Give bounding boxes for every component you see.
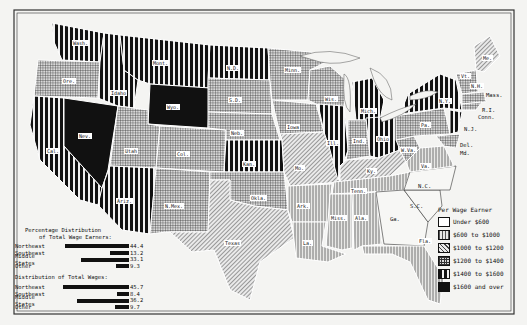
label-mont: Mont. xyxy=(152,60,169,66)
label-miss: Miss. xyxy=(330,215,347,221)
label-conn: Conn. xyxy=(478,114,495,120)
label-wva: W.Va. xyxy=(400,147,417,153)
label-ariz: Ariz. xyxy=(116,198,133,204)
label-pa: Pa. xyxy=(420,122,431,128)
label-nev: Nev. xyxy=(78,133,92,139)
earners-title-2: of Total Wage Earners: xyxy=(15,234,165,241)
state-miss xyxy=(326,194,352,250)
label-ohio: Ohio xyxy=(376,136,390,142)
swatch-heavy-vertical-icon xyxy=(438,269,450,279)
swatch-blank-icon xyxy=(438,217,450,227)
label-tenn: Tenn. xyxy=(350,188,367,194)
swatch-diagonal-icon xyxy=(438,243,450,253)
bar xyxy=(63,285,129,289)
bar xyxy=(65,244,129,248)
label-mass: Mass. xyxy=(486,92,503,98)
distribution-panel: Percentage Distribution of Total Wage Ea… xyxy=(15,227,165,311)
label-ark: Ark. xyxy=(296,203,310,209)
wages-title: Distribution of Total Wages: xyxy=(15,274,165,281)
bar xyxy=(115,305,129,309)
swatch-solid-icon xyxy=(438,282,450,292)
label-minn: Minn. xyxy=(284,67,301,73)
label-ore: Ore. xyxy=(62,78,76,84)
label-ga: Ga. xyxy=(390,216,400,222)
label-ala: Ala. xyxy=(354,215,368,221)
label-la: La. xyxy=(302,240,313,246)
label-sd: S.D. xyxy=(228,97,242,103)
label-sc: S.C. xyxy=(410,203,423,209)
earners-title-1: Percentage Distribution xyxy=(15,227,165,234)
label-idaho: Idaho xyxy=(110,90,127,96)
swatch-light-vertical-icon xyxy=(438,230,450,240)
label-wash: Wash. xyxy=(72,40,89,46)
wages-row-middle-states: Middle States 36.2 xyxy=(15,297,165,304)
earners-row-other: Other 9.3 xyxy=(15,263,165,270)
label-ky: Ky. xyxy=(366,168,377,174)
state-col xyxy=(156,126,226,172)
bar xyxy=(81,258,129,262)
state-wis xyxy=(308,66,346,110)
label-wis: Wis. xyxy=(324,96,338,102)
label-col: Col. xyxy=(176,151,190,157)
legend-item-1400-1600: $1400 to $1600 xyxy=(438,267,526,280)
earners-row-northeast: Northeast 44.4 xyxy=(15,243,165,250)
bar xyxy=(116,264,129,268)
state-fla xyxy=(362,246,444,304)
state-nd xyxy=(208,45,270,80)
state-sd xyxy=(208,78,272,114)
label-neb: Neb. xyxy=(230,130,244,136)
state-nmex xyxy=(150,168,210,234)
label-me: Me. xyxy=(482,55,493,61)
state-nj xyxy=(450,110,462,134)
state-me xyxy=(474,36,500,72)
label-okla: Okla. xyxy=(250,195,267,201)
legend-item-under-600: Under $600 xyxy=(438,215,526,228)
legend-item-1200-1400: $1200 to $1400 xyxy=(438,254,526,267)
label-ri: R.I. xyxy=(482,107,495,113)
label-nc: N.C. xyxy=(418,183,431,189)
earners-row-middle-states: Middle States 33.1 xyxy=(15,256,165,263)
wages-row-other: Other 9.7 xyxy=(15,304,165,311)
label-md: Md. xyxy=(460,150,470,156)
label-mo: Mo. xyxy=(294,165,305,171)
legend-item-600-1000: $600 to $1000 xyxy=(438,228,526,241)
label-ind: Ind. xyxy=(352,138,366,144)
label-wyo: Wyo. xyxy=(166,104,180,110)
label-cal: Cal. xyxy=(46,148,60,154)
label-texas: Texas xyxy=(224,240,241,246)
label-mich: Mich. xyxy=(360,108,377,114)
legend-item-1000-1200: $1000 to $1200 xyxy=(438,241,526,254)
label-iowa: Iowa xyxy=(286,124,300,130)
label-va: Va. xyxy=(420,163,431,169)
label-nd: N.D. xyxy=(226,65,240,71)
label-ny: N.Y. xyxy=(438,98,452,104)
legend: Per Wage Earner Under $600 $600 to $1000… xyxy=(438,206,526,293)
label-kan: Kan. xyxy=(242,161,256,167)
label-ill: Ill. xyxy=(326,140,340,146)
label-fla: Fla. xyxy=(418,238,432,244)
state-kan xyxy=(224,140,284,172)
bar xyxy=(77,299,129,303)
bar xyxy=(117,292,129,296)
label-nmex: N.Mex. xyxy=(164,203,184,209)
label-del: Del. xyxy=(460,142,473,148)
bar xyxy=(110,251,129,255)
state-conn-ri xyxy=(462,102,482,110)
label-utah: Utah xyxy=(124,148,138,154)
label-vt: Vt. xyxy=(460,73,471,79)
legend-title: Per Wage Earner xyxy=(438,206,526,213)
wages-row-northeast: Northeast 45.7 xyxy=(15,284,165,291)
swatch-grid-icon xyxy=(438,256,450,266)
legend-item-1600-over: $1600 and over xyxy=(438,280,526,293)
label-nj: N.J. xyxy=(464,126,477,132)
label-nh: N.H. xyxy=(470,83,484,89)
